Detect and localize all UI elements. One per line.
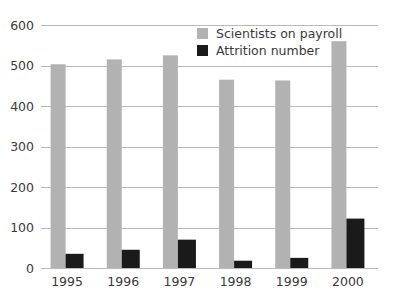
bar-attrition-number-1997 [178,240,196,268]
legend-swatch-scientists-on-payroll [197,28,208,39]
bar-attrition-number-1995 [66,254,84,268]
bar-scientists-on-payroll-1999 [275,80,290,268]
bar-attrition-number-1998 [234,261,252,268]
bars-group [51,41,365,268]
bar-scientists-on-payroll-1998 [219,80,234,268]
chart-canvas: 0100200300400500600 19951996199719981999… [0,0,395,304]
bar-chart: 0100200300400500600 19951996199719981999… [0,0,395,304]
y-tick-label: 0 [26,261,34,276]
x-tick-label: 1997 [164,274,196,289]
bar-attrition-number-1996 [122,250,140,268]
x-tick-label: 1998 [220,274,252,289]
x-tick-label: 1996 [107,274,139,289]
legend-label-scientists-on-payroll: Scientists on payroll [216,26,342,41]
y-tick-label: 300 [10,139,34,154]
chart-legend: Scientists on payrollAttrition number [197,26,342,58]
y-tick-label: 200 [10,180,34,195]
y-tick-label: 400 [10,99,34,114]
gridlines [41,26,378,269]
y-tick-label: 600 [10,18,34,33]
x-tick-label: 1995 [51,274,83,289]
bar-scientists-on-payroll-1996 [107,59,122,268]
y-tick-label: 500 [10,58,34,73]
legend-label-attrition-number: Attrition number [216,43,320,58]
bar-scientists-on-payroll-2000 [331,41,346,268]
x-tick-label: 1999 [276,274,308,289]
bar-attrition-number-2000 [346,219,364,268]
x-tick-label: 2000 [332,274,364,289]
bar-scientists-on-payroll-1997 [163,55,178,268]
legend-swatch-attrition-number [197,45,208,56]
y-axis-tick-labels: 0100200300400500600 [10,18,34,276]
x-axis-tick-labels: 199519961997199819992000 [51,274,364,289]
bar-scientists-on-payroll-1995 [51,64,66,268]
bar-attrition-number-1999 [290,258,308,268]
y-tick-label: 100 [10,220,34,235]
